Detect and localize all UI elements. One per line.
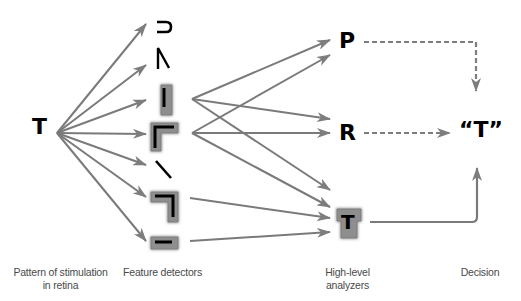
arrow-corner-tr-to-T xyxy=(190,198,330,218)
feature-detectors xyxy=(150,22,179,250)
analyzer-T: T xyxy=(341,210,355,234)
analyzer-R: R xyxy=(339,120,356,145)
feature-arrows xyxy=(190,40,330,241)
label-retina: Pattern of stimulation in retina xyxy=(8,266,113,292)
diagram-canvas xyxy=(0,0,521,301)
decision-output: “T” xyxy=(459,117,503,142)
label-analyzers-line2: analyzers xyxy=(320,279,375,292)
arrow-corner-tl-to-P xyxy=(192,55,330,133)
diagonal-feature-icon xyxy=(156,161,171,178)
curve-feature-icon xyxy=(157,22,171,32)
label-retina-line2: in retina xyxy=(8,279,113,292)
arrow-horizontal-to-T xyxy=(190,232,330,241)
arrow-retina-to-angle xyxy=(57,65,146,133)
label-decision: Decision xyxy=(455,266,505,279)
label-feature-detectors: Feature detectors xyxy=(120,266,205,279)
arrow-retina-to-corner-tl xyxy=(57,133,146,134)
label-analyzers-line1: High-level xyxy=(320,266,375,279)
arrow-vertical-to-P xyxy=(192,40,330,99)
label-high-level-analyzers: High-level analyzers xyxy=(320,266,375,292)
arrow-T-to-decision xyxy=(370,168,477,222)
retina-pattern-letter: T xyxy=(32,114,47,139)
retina-arrows xyxy=(57,24,146,241)
analyzer-P: P xyxy=(339,28,355,53)
arrow-vertical-to-R xyxy=(192,99,330,119)
angle-feature-icon xyxy=(158,48,169,69)
arrow-P-to-decision xyxy=(364,42,476,91)
label-retina-line1: Pattern of stimulation xyxy=(8,266,113,279)
